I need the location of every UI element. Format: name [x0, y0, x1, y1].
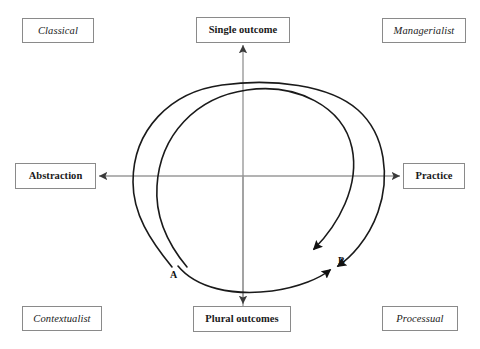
quadrant-label-managerialist-text: Managerialist [394, 25, 455, 36]
quadrant-label-contextualist: Contextualist [22, 306, 102, 331]
quadrant-label-processual-text: Processual [396, 313, 443, 324]
axis-label-plural-outcomes: Plural outcomes [193, 306, 291, 332]
quadrant-label-managerialist: Managerialist [382, 18, 466, 43]
curve-label-b: B [338, 256, 345, 266]
lower-sweep-curve [178, 266, 330, 292]
axis-label-plural-outcomes-text: Plural outcomes [205, 313, 278, 324]
axis-label-practice: Practice [403, 163, 465, 189]
quadrant-label-processual: Processual [382, 306, 458, 331]
axis-label-single-outcome-text: Single outcome [209, 24, 278, 35]
quadrant-label-classical: Classical [22, 18, 94, 43]
axis-label-single-outcome: Single outcome [196, 17, 290, 43]
inner-spiral-curve [157, 89, 354, 267]
curve-label-a: A [170, 270, 177, 280]
quadrant-label-contextualist-text: Contextualist [33, 313, 90, 324]
diagram-canvas: Classical Managerialist Contextualist Pr… [0, 0, 480, 349]
axis-label-practice-text: Practice [415, 170, 452, 181]
outer-spiral-curve [133, 82, 384, 267]
quadrant-label-classical-text: Classical [38, 25, 78, 36]
axis-label-abstraction-text: Abstraction [29, 170, 83, 181]
axis-label-abstraction: Abstraction [15, 163, 96, 189]
